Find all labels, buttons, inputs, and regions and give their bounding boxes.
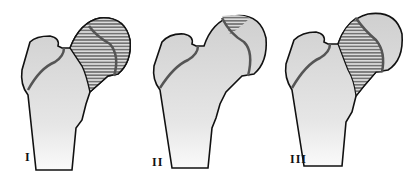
femur-panel-1: I [0,0,140,180]
femur-diagram-1 [0,0,140,180]
panel-label-3: III [290,152,307,167]
femur-panel-3: III [280,0,420,180]
panel-label-2: II [152,155,163,170]
femur-diagram-2 [140,0,280,180]
panel-label-1: I [25,150,31,165]
femur-panel-2: II [140,0,280,180]
